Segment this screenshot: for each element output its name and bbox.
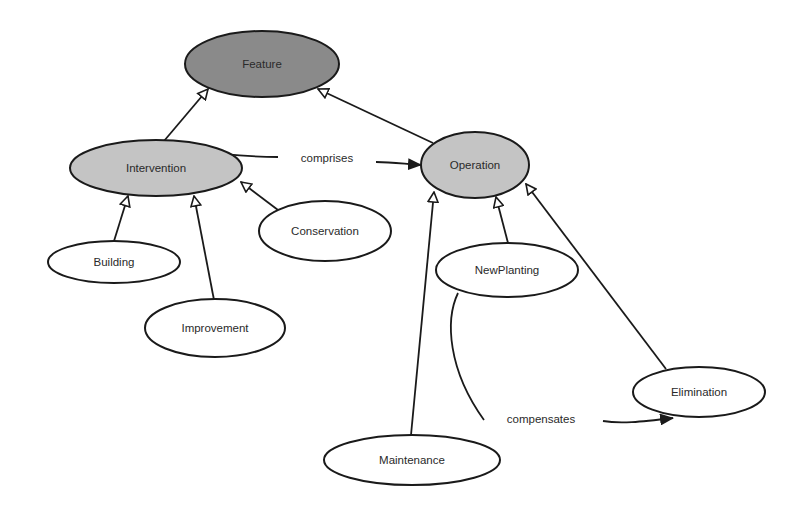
node-operation-label: Operation	[450, 159, 501, 171]
edge-building-to-intervention	[114, 196, 128, 241]
edge-comprises-end	[376, 162, 421, 165]
edge-newplanting-to-operation	[496, 197, 508, 243]
edge-operation-to-feature	[318, 89, 433, 143]
edge-improvement-to-intervention	[194, 196, 214, 300]
node-newplanting[interactable]: NewPlanting	[436, 243, 578, 297]
node-elimination[interactable]: Elimination	[633, 367, 765, 417]
node-operation[interactable]: Operation	[421, 132, 529, 198]
node-building-label: Building	[94, 256, 135, 268]
node-building[interactable]: Building	[48, 241, 180, 283]
edge-label-comprises: comprises	[301, 152, 354, 164]
edge-compensates-start	[451, 293, 484, 420]
node-conservation[interactable]: Conservation	[259, 201, 391, 261]
node-intervention-label: Intervention	[126, 162, 186, 174]
node-improvement[interactable]: Improvement	[145, 299, 285, 357]
node-intervention[interactable]: Intervention	[70, 140, 242, 196]
node-maintenance[interactable]: Maintenance	[324, 435, 500, 485]
node-elimination-label: Elimination	[671, 386, 727, 398]
association-edges: comprises compensates	[198, 152, 673, 425]
edge-label-compensates: compensates	[507, 413, 576, 425]
edge-intervention-to-feature	[164, 89, 208, 141]
node-maintenance-label: Maintenance	[379, 454, 445, 466]
edge-conservation-to-intervention	[241, 182, 278, 210]
edge-maintenance-to-operation	[411, 192, 434, 435]
ontology-diagram: comprises compensates Feature Interventi…	[0, 0, 808, 511]
edge-compensates-end	[603, 418, 673, 422]
node-improvement-label: Improvement	[181, 322, 249, 334]
node-newplanting-label: NewPlanting	[475, 264, 540, 276]
node-feature[interactable]: Feature	[185, 31, 339, 97]
node-feature-label: Feature	[242, 58, 282, 70]
inheritance-edges	[114, 89, 666, 435]
node-conservation-label: Conservation	[291, 225, 359, 237]
